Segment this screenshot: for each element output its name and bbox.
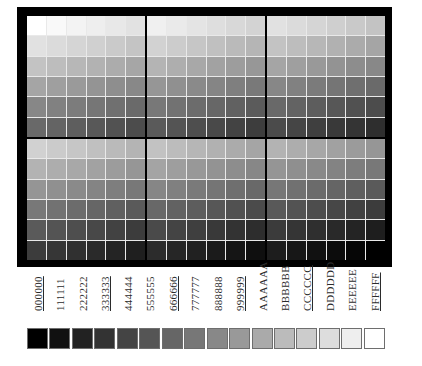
legend-label: 999999 (229, 276, 251, 323)
gray-cell (187, 77, 206, 96)
gray-cell (307, 159, 326, 178)
gray-cell (287, 97, 306, 116)
legend-label: 333333 (94, 276, 116, 323)
gray-cell (27, 36, 46, 55)
gray-cell (226, 36, 245, 55)
gray-cell (167, 200, 186, 219)
legend-label-text: DDDDDD (324, 262, 336, 311)
gray-cell (147, 118, 166, 137)
gray-cell (67, 57, 86, 76)
gray-cell (226, 57, 245, 76)
gray-cell (106, 159, 125, 178)
gray-cell (106, 139, 125, 158)
gray-cell (67, 118, 86, 137)
panel-top-right (267, 16, 385, 137)
gray-cell (27, 77, 46, 96)
gray-cell (167, 241, 186, 260)
gray-cell (147, 57, 166, 76)
gray-cell (126, 220, 145, 239)
gray-cell (226, 118, 245, 137)
gray-cell (267, 200, 286, 219)
legend-label: 555555 (139, 276, 161, 323)
gray-cell (287, 220, 306, 239)
gray-cell (126, 241, 145, 260)
gray-cell (307, 118, 326, 137)
gray-cell (187, 139, 206, 158)
gray-cell (167, 118, 186, 137)
gray-cell (346, 139, 365, 158)
gray-cell (147, 200, 166, 219)
gray-cell (106, 57, 125, 76)
gray-cell (47, 159, 66, 178)
gray-cell (67, 200, 86, 219)
legend-label-text: 555555 (144, 276, 156, 311)
gray-cell (226, 159, 245, 178)
gray-cell (126, 77, 145, 96)
gray-cell (327, 57, 346, 76)
gray-cell (267, 77, 286, 96)
color-swatch (94, 328, 115, 349)
gray-cell (366, 159, 385, 178)
legend-label-text: 999999 (234, 276, 246, 311)
gray-cell (207, 16, 226, 35)
gray-cell (87, 57, 106, 76)
gray-cell (187, 16, 206, 35)
gray-cell (67, 159, 86, 178)
gray-cell (67, 16, 86, 35)
gray-cell (106, 16, 125, 35)
gray-cell (187, 57, 206, 76)
gray-cell (226, 16, 245, 35)
color-swatch (364, 328, 385, 349)
gray-cell (207, 200, 226, 219)
gray-cell (87, 118, 106, 137)
gray-cell (246, 97, 265, 116)
gray-cell (67, 36, 86, 55)
gray-cell (307, 200, 326, 219)
gray-cell (126, 118, 145, 137)
gray-cell (246, 36, 265, 55)
gray-cell (47, 36, 66, 55)
gray-cell (246, 77, 265, 96)
gray-cell (327, 97, 346, 116)
gray-cell (187, 97, 206, 116)
gray-cell (147, 97, 166, 116)
legend-label-text: BBBBBB (279, 265, 291, 311)
gray-cell (366, 97, 385, 116)
gray-cell (207, 118, 226, 137)
gray-cell (187, 220, 206, 239)
gray-cell (27, 159, 46, 178)
gray-cell (366, 16, 385, 35)
gray-cell (366, 241, 385, 260)
gray-cell (87, 220, 106, 239)
gray-cell (207, 159, 226, 178)
color-swatch (229, 328, 250, 349)
gray-cell (27, 220, 46, 239)
color-swatch (162, 328, 183, 349)
gray-cell (267, 57, 286, 76)
gray-cell (267, 97, 286, 116)
gray-cell (167, 139, 186, 158)
gray-cell (307, 180, 326, 199)
gray-cell (126, 97, 145, 116)
gray-cell (226, 77, 245, 96)
gray-cell (307, 241, 326, 260)
gray-cell (87, 200, 106, 219)
gray-cell (346, 220, 365, 239)
gray-cell (87, 180, 106, 199)
gray-cell (327, 241, 346, 260)
legend-swatches (27, 328, 387, 350)
gray-cell (207, 36, 226, 55)
color-swatch (49, 328, 70, 349)
legend-label: 777777 (184, 276, 206, 323)
gray-cell (327, 36, 346, 55)
legend-label: 444444 (117, 276, 139, 323)
gray-cell (147, 159, 166, 178)
gray-cell (327, 200, 346, 219)
legend-label: CCCCCC (296, 276, 318, 323)
gray-cell (27, 139, 46, 158)
gray-cell (307, 77, 326, 96)
gray-cell (246, 241, 265, 260)
gray-cell (327, 180, 346, 199)
legend-label: EEEEEE (341, 276, 363, 323)
gray-cell (207, 97, 226, 116)
